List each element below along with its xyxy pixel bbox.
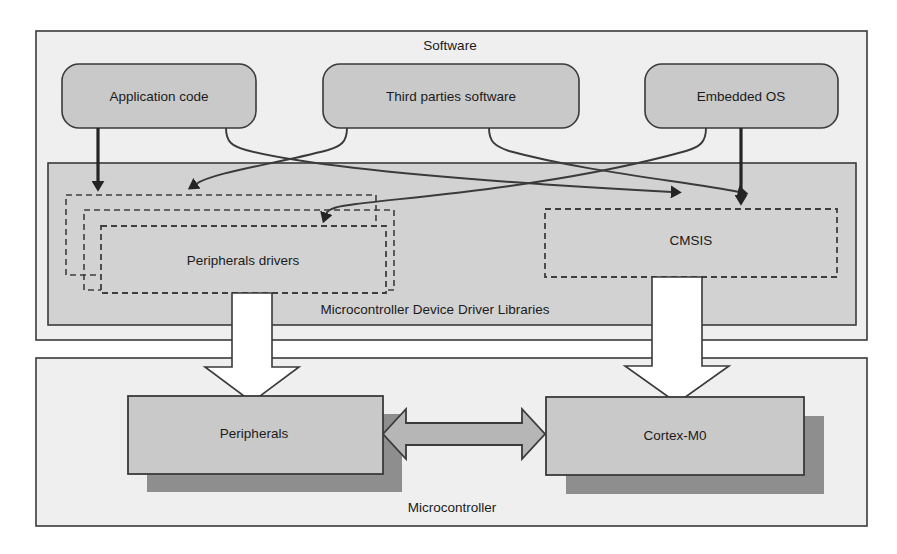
mddl-layer-label: Microcontroller Device Driver Libraries xyxy=(321,303,550,317)
application-code-label: Application code xyxy=(109,90,208,104)
microcontroller-layer-label: Microcontroller xyxy=(408,501,497,515)
diagram-canvas: Software Application code Third parties … xyxy=(0,0,897,554)
software-layer-label: Software xyxy=(423,39,476,53)
embedded-os-label: Embedded OS xyxy=(697,90,786,104)
third-parties-software-label: Third parties software xyxy=(386,90,516,104)
peripherals-label: Peripherals xyxy=(220,427,288,441)
cortex-m0-label: Cortex-M0 xyxy=(643,429,706,443)
diagram-vector-layer xyxy=(0,0,897,554)
peripherals-drivers-label: Peripherals drivers xyxy=(187,254,300,268)
cmsis-label: CMSIS xyxy=(670,234,713,248)
